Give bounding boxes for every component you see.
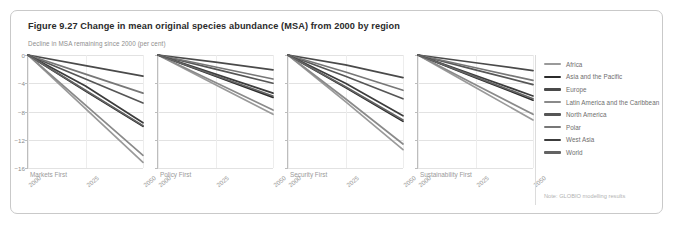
vertical-gridline <box>533 55 534 168</box>
x-tick-label: 2050 <box>272 174 287 188</box>
y-tick-label: −4 <box>18 80 25 87</box>
plot-area <box>157 55 273 168</box>
gridline <box>288 168 403 169</box>
y-tick-mark <box>155 168 158 169</box>
legend-item[interactable]: Asia and the Pacific <box>544 71 674 84</box>
legend-label: Latin America and the Caribbean <box>566 99 659 106</box>
y-tick-label: −8 <box>18 108 25 115</box>
series-line <box>288 55 403 90</box>
series-line <box>288 55 403 78</box>
chart-legend: AfricaAsia and the PacificEuropeLatin Am… <box>544 58 674 159</box>
series-line <box>158 55 273 110</box>
series-line <box>28 55 143 155</box>
legend-swatch-icon <box>544 151 561 153</box>
legend-label: Polar <box>566 124 581 131</box>
vertical-gridline <box>143 55 144 168</box>
series-lines <box>158 55 273 168</box>
figure-note: Note: GLOBIO modelling results <box>544 193 625 199</box>
legend-label: Africa <box>566 61 582 68</box>
series-line <box>28 55 143 93</box>
figure-title: Figure 9.27 Change in mean original spec… <box>28 21 400 31</box>
series-line <box>28 55 143 103</box>
x-tick-label: 2050 <box>402 174 417 188</box>
chart-panels: 0−4−8−12−16Markets First200020252050Poli… <box>27 55 532 205</box>
gridline <box>418 168 533 169</box>
series-line <box>418 55 533 114</box>
series-line <box>288 55 403 99</box>
y-tick-mark <box>415 168 418 169</box>
legend-swatch-icon <box>544 139 561 141</box>
legend-label: North America <box>566 111 607 118</box>
y-tick-mark <box>285 168 288 169</box>
legend-swatch-icon <box>544 76 561 78</box>
y-tick-label: 0 <box>22 52 25 59</box>
legend-swatch-icon <box>544 126 561 128</box>
series-lines <box>28 55 143 168</box>
gridline <box>28 168 143 169</box>
legend-item[interactable]: West Asia <box>544 134 674 147</box>
figure-subtitle: Decline in MSA remaining since 2000 (per… <box>28 40 166 47</box>
series-lines <box>288 55 403 168</box>
legend-divider <box>535 55 536 205</box>
vertical-gridline <box>273 55 274 168</box>
vertical-gridline <box>403 55 404 168</box>
legend-label: Asia and the Pacific <box>566 73 622 80</box>
legend-item[interactable]: World <box>544 146 674 159</box>
x-tick-label: 2025 <box>85 174 100 188</box>
series-lines <box>418 55 533 168</box>
legend-swatch-icon <box>544 113 561 115</box>
x-tick-label: 2025 <box>345 174 360 188</box>
legend-swatch-icon <box>544 63 561 65</box>
figure-container: Figure 9.27 Change in mean original spec… <box>10 10 663 214</box>
legend-item[interactable]: Polar <box>544 121 674 134</box>
legend-item[interactable]: Latin America and the Caribbean <box>544 96 674 109</box>
x-tick-label: 2025 <box>215 174 230 188</box>
plot-area <box>287 55 403 168</box>
chart-panel: Policy First200020252050 <box>157 55 272 205</box>
series-line <box>288 55 403 144</box>
chart-panel: Security First200020252050 <box>287 55 402 205</box>
legend-swatch-icon <box>544 88 561 90</box>
legend-item[interactable]: Europe <box>544 83 674 96</box>
y-tick-label: −12 <box>15 136 26 143</box>
legend-item[interactable]: North America <box>544 108 674 121</box>
x-tick-label: 2025 <box>475 174 490 188</box>
plot-area: 0−4−8−12−16 <box>27 55 143 168</box>
gridline <box>158 168 273 169</box>
legend-label: Europe <box>566 86 587 93</box>
chart-panel: Sustainability First200020252050 <box>417 55 532 205</box>
legend-swatch-icon <box>544 101 561 103</box>
legend-label: World <box>566 149 583 156</box>
legend-label: West Asia <box>566 136 594 143</box>
chart-panel: 0−4−8−12−16Markets First200020252050 <box>27 55 142 205</box>
y-tick-label: −16 <box>15 165 26 172</box>
plot-area <box>417 55 533 168</box>
legend-item[interactable]: Africa <box>544 58 674 71</box>
x-tick-label: 2050 <box>142 174 157 188</box>
